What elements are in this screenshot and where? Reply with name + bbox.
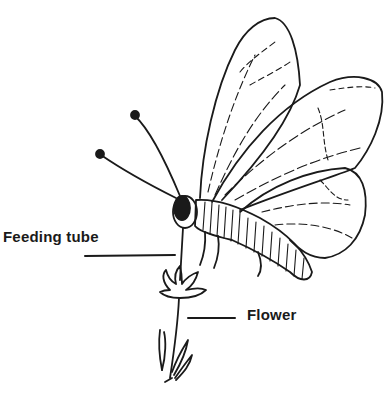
hindwing-lower [240, 168, 366, 258]
body [195, 200, 312, 280]
flower-label: Flower [247, 306, 297, 323]
legs [200, 232, 261, 276]
feeding-tube-label: Feeding tube [3, 228, 99, 245]
flower-head [160, 266, 206, 298]
hindwing-upper [212, 77, 382, 210]
head [173, 196, 197, 228]
feeding-tube-leader [85, 255, 175, 256]
butterfly-diagram [0, 0, 391, 395]
antennae [96, 111, 180, 198]
forewing [200, 18, 300, 200]
